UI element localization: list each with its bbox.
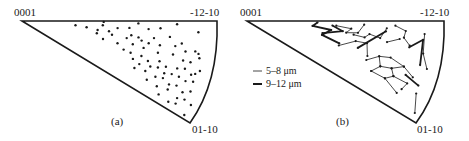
scatter-point [154, 76, 156, 78]
segment-node [390, 57, 392, 59]
segment-node [392, 75, 394, 77]
segment-node [386, 41, 388, 43]
vertex-label-01-10-b: 01-10 [417, 123, 443, 135]
scatter-point [116, 42, 118, 44]
panel-b: 0001 -12-10 01-10 (b) 5–8 μm 9–12 μm [240, 6, 450, 135]
scatter-point [85, 26, 87, 28]
segment-node [350, 28, 352, 30]
segment-node [424, 33, 426, 35]
scatter-point [148, 42, 150, 44]
scatter-point [137, 36, 139, 38]
segment-thin [339, 41, 368, 56]
scatter-point [157, 66, 159, 68]
scatter-point [116, 27, 118, 29]
scatter-point [197, 53, 199, 55]
panel-caption-a: (a) [111, 115, 124, 128]
segment-node [396, 92, 398, 94]
scatter-point [168, 83, 170, 85]
segment-node [385, 30, 387, 32]
vertex-label-0001-a: 0001 [14, 6, 36, 18]
scatter-point [167, 101, 169, 103]
triangle-outline-a [22, 21, 217, 123]
segment-node [353, 34, 355, 36]
segment-thick [409, 40, 423, 65]
segment-node [316, 21, 318, 23]
segment-node [412, 76, 414, 78]
segment-node [370, 70, 372, 72]
scatter-point [194, 73, 196, 75]
scatter-point [182, 59, 184, 61]
scatter-point [102, 24, 104, 26]
scatter-point [189, 90, 191, 92]
panel-caption-b: (b) [336, 115, 349, 128]
scatter-point [178, 76, 180, 78]
scatter-point [197, 31, 199, 33]
legend-label-thin: 5–8 μm [266, 65, 297, 76]
scatter-points [74, 21, 201, 117]
scatter-point [198, 57, 200, 59]
segment-thin [392, 67, 404, 69]
scatter-point [129, 52, 131, 54]
scatter-point [192, 81, 194, 83]
scatter-point [130, 34, 132, 36]
segment-node [355, 40, 357, 42]
scatter-point [176, 97, 178, 99]
segment-node [366, 55, 368, 57]
scatter-point [137, 22, 139, 24]
segment-thin [415, 94, 416, 114]
scatter-point [190, 104, 192, 106]
segment-node [405, 74, 407, 76]
scatter-point [146, 79, 148, 81]
segment-node [405, 30, 407, 32]
scatter-point [159, 44, 161, 46]
figure: 0001 -12-10 01-10 (a) 0001 -12-10 01-10 … [0, 0, 469, 141]
scatter-point [171, 73, 173, 75]
scatter-point [169, 36, 171, 38]
segment-node [403, 66, 405, 68]
segment-node [419, 64, 421, 66]
scatter-point [181, 91, 183, 93]
scatter-point [156, 85, 158, 87]
segment-node [422, 39, 424, 41]
scatter-point [111, 34, 113, 36]
scatter-point [96, 32, 98, 34]
segment-node [331, 24, 333, 26]
vertex-label-12-10-a: -12-10 [190, 6, 220, 18]
scatter-point [175, 84, 177, 86]
scatter-point [128, 27, 130, 29]
segment-node [386, 27, 388, 29]
scatter-point [96, 29, 98, 31]
segment-node [357, 32, 359, 34]
scatter-point [199, 70, 201, 72]
scatter-point [126, 37, 128, 39]
legend-label-thick: 9–12 μm [266, 78, 302, 89]
scatter-point [132, 43, 134, 45]
segment-node [338, 44, 340, 46]
scatter-point [158, 60, 160, 62]
segment-node [414, 112, 416, 114]
scatter-point [184, 50, 186, 52]
scatter-point [183, 98, 185, 100]
scatter-point [176, 67, 178, 69]
segment-node [357, 47, 359, 49]
segment-network [312, 21, 429, 114]
panel-a: 0001 -12-10 01-10 (a) [14, 6, 220, 135]
segment-node [394, 25, 396, 27]
segment-node [417, 85, 419, 87]
scatter-point [138, 63, 140, 65]
segment-node [312, 25, 314, 27]
scatter-point [194, 50, 196, 52]
scatter-point [189, 61, 191, 63]
scatter-point [165, 66, 167, 68]
segment-node [399, 38, 401, 40]
scatter-point [183, 114, 185, 116]
scatter-point [108, 30, 110, 32]
scatter-point [122, 48, 124, 50]
segment-thin [393, 76, 407, 89]
scatter-point [167, 88, 169, 90]
scatter-point [153, 37, 155, 39]
scatter-point [140, 55, 142, 57]
scatter-point [159, 27, 161, 29]
segment-node [415, 92, 417, 94]
vertex-label-01-10-a: 01-10 [192, 123, 218, 135]
